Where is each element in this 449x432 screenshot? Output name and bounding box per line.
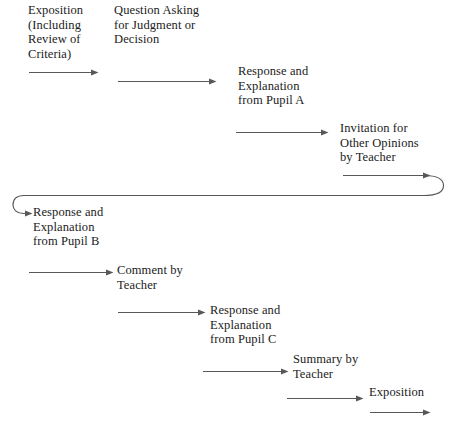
connector-pupil-b-to-comment bbox=[29, 269, 114, 275]
connector-exposition-outgoing bbox=[370, 409, 431, 415]
node-summary-by-teacher: Summary by Teacher bbox=[293, 352, 385, 381]
node-invitation-other-opinions: Invitation for Other Opinions by Teacher bbox=[340, 121, 446, 165]
node-exposition-final: Exposition bbox=[369, 385, 447, 400]
node-response-pupil-c: Response and Explanation from Pupil C bbox=[210, 303, 310, 347]
node-question-asking-judgment: Question Asking for Judgment or Decision bbox=[114, 3, 226, 47]
connector-comment-to-pupil-c bbox=[118, 309, 206, 315]
connector-summary-to-exposition bbox=[287, 395, 364, 401]
connector-pupil-a-to-invitation bbox=[236, 129, 329, 135]
node-response-pupil-a: Response and Explanation from Pupil A bbox=[238, 64, 338, 108]
connector-question-to-pupil-a bbox=[118, 78, 217, 84]
flowchart-diagram: Exposition (Including Review of Criteria… bbox=[0, 0, 449, 432]
node-response-pupil-b: Response and Explanation from Pupil B bbox=[33, 205, 133, 249]
node-comment-by-teacher: Comment by Teacher bbox=[117, 263, 209, 292]
connector-pupil-c-to-summary bbox=[203, 368, 289, 374]
node-exposition-review-criteria: Exposition (Including Review of Criteria… bbox=[28, 3, 112, 61]
connector-exposition-to-question bbox=[29, 69, 99, 75]
